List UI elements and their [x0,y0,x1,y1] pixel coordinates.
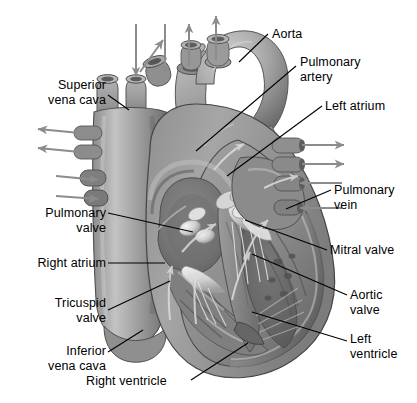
label-right-ventricle: Right ventricle [86,374,192,389]
label-mitral-valve: Mitral valve [330,243,416,258]
label-superior-vena-cava: Superior vena cava [28,78,106,107]
heart-diagram-figure: Superior vena cava Aorta Pulmonary arter… [0,0,417,403]
label-pulmonary-artery: Pulmonary artery [300,55,386,84]
label-left-atrium: Left atrium [325,99,415,114]
label-right-atrium: Right atrium [14,256,106,271]
label-aortic-valve: Aortic valve [350,288,412,317]
label-left-ventricle: Left ventricle [350,332,416,361]
arrow-left-outflow-1 [38,129,80,133]
label-inferior-vena-cava: Inferior vena cava [22,344,106,373]
label-pulmonary-vein: Pulmonary vein [334,183,416,212]
label-aorta: Aorta [272,27,332,42]
label-pulmonary-valve: Pulmonary valve [18,206,106,235]
arrow-left-outflow-2 [38,148,80,152]
label-tricuspid-valve: Tricuspid valve [22,296,106,325]
